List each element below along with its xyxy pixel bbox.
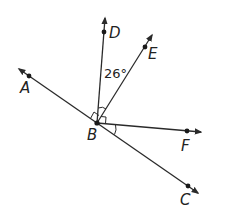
label-d: D xyxy=(109,26,121,41)
label-a: A xyxy=(20,81,30,96)
point-c xyxy=(186,184,191,189)
angle-label-26: 26° xyxy=(104,67,127,80)
point-f xyxy=(185,129,190,134)
label-e: E xyxy=(148,47,157,62)
point-b xyxy=(94,120,99,125)
label-c: C xyxy=(180,193,190,208)
label-f: F xyxy=(181,139,190,154)
point-a xyxy=(27,74,32,79)
angle-arc-dbe xyxy=(98,107,106,109)
right-angle-mark-ebf xyxy=(101,117,106,124)
label-b: B xyxy=(87,128,97,143)
angle-diagram: D E A B F C 26° xyxy=(0,0,229,221)
point-e xyxy=(143,45,148,50)
line-ac xyxy=(19,69,198,193)
point-d xyxy=(102,30,107,35)
angle-arc-fbc xyxy=(115,125,117,135)
